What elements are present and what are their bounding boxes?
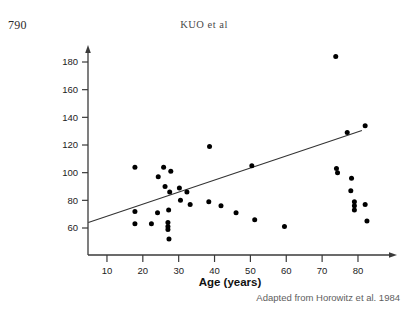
figure-credit: Adapted from Horowitz et al. 1984 <box>256 292 400 303</box>
data-point <box>177 185 182 190</box>
y-tick-label: 60 <box>67 222 78 233</box>
x-tick-label: 60 <box>281 265 292 276</box>
data-point <box>163 184 168 189</box>
trend-line-segment <box>88 130 362 222</box>
y-tick-label: 80 <box>67 195 78 206</box>
x-tick-label: 40 <box>209 265 220 276</box>
x-tick-label: 30 <box>173 265 184 276</box>
page: 790 KUO et al 6080100120140160180 102030… <box>0 0 408 313</box>
data-point <box>184 190 189 195</box>
data-point <box>349 176 354 181</box>
y-tick-marks: 6080100120140160180 <box>62 56 88 233</box>
data-point <box>335 170 340 175</box>
data-point <box>206 199 211 204</box>
data-point <box>155 210 160 215</box>
x-tick-label: 50 <box>245 265 256 276</box>
axes <box>85 45 397 258</box>
data-point <box>161 165 166 170</box>
x-tick-label: 80 <box>353 265 364 276</box>
data-point <box>156 174 161 179</box>
y-tick-label: 100 <box>62 167 78 178</box>
data-point <box>364 219 369 224</box>
y-tick-label: 180 <box>62 56 78 67</box>
data-point <box>363 123 368 128</box>
data-point <box>165 227 170 232</box>
x-tick-label: 20 <box>138 265 149 276</box>
y-tick-label: 120 <box>62 139 78 150</box>
x-tick-label: 10 <box>102 265 113 276</box>
data-point <box>132 221 137 226</box>
data-point <box>363 202 368 207</box>
x-axis-arrowhead <box>389 252 397 258</box>
x-tick-marks: 1020304050607080 <box>102 255 364 276</box>
data-point <box>166 237 171 242</box>
data-point <box>168 169 173 174</box>
x-tick-label: 70 <box>317 265 328 276</box>
data-point <box>149 221 154 226</box>
data-point <box>132 165 137 170</box>
x-axis-label: Age (years) <box>150 276 310 288</box>
y-axis-arrowhead <box>85 45 91 53</box>
data-points <box>132 54 369 242</box>
data-point <box>282 224 287 229</box>
data-point <box>178 198 183 203</box>
scatter-figure: 6080100120140160180 1020304050607080 Sol… <box>0 0 408 313</box>
data-point <box>167 190 172 195</box>
data-point <box>188 202 193 207</box>
trend-line <box>88 130 362 222</box>
plot-canvas: 6080100120140160180 1020304050607080 <box>0 0 408 313</box>
data-point <box>352 208 357 213</box>
y-tick-label: 140 <box>62 112 78 123</box>
data-point <box>345 130 350 135</box>
data-point <box>132 209 137 214</box>
data-point <box>348 188 353 193</box>
y-tick-label: 160 <box>62 84 78 95</box>
data-point <box>166 208 171 213</box>
data-point <box>218 203 223 208</box>
data-point <box>234 210 239 215</box>
data-point <box>252 217 257 222</box>
data-point <box>207 144 212 149</box>
data-point <box>249 163 254 168</box>
data-point <box>333 54 338 59</box>
